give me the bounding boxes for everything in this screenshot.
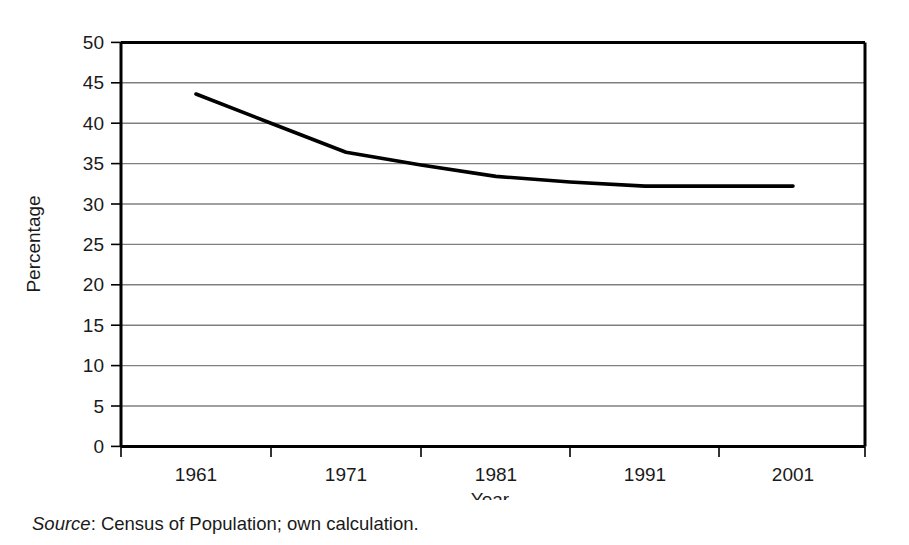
x-tick-label: 1961 (175, 464, 217, 485)
source-label: Source (32, 513, 91, 534)
y-tick-label: 0 (93, 436, 104, 457)
gridlines (121, 83, 865, 406)
y-tick-label: 50 (83, 32, 104, 53)
y-tick-label: 40 (83, 113, 104, 134)
y-tick-label: 10 (83, 355, 104, 376)
data-series-line (196, 94, 793, 186)
y-tick-label: 15 (83, 315, 104, 336)
x-axis-title: Year (471, 489, 510, 500)
line-chart: 0 5 10 15 20 25 30 35 40 45 50 1961 1971… (0, 0, 909, 500)
x-tick-labels: 1961 1971 1981 1991 2001 (175, 464, 814, 485)
x-tick-label: 1991 (624, 464, 666, 485)
y-tick-label: 25 (83, 234, 104, 255)
y-tick-label: 20 (83, 274, 104, 295)
y-tick-label: 5 (93, 396, 104, 417)
y-tick-label: 45 (83, 72, 104, 93)
x-tick-label: 1981 (475, 464, 517, 485)
y-tick-labels: 0 5 10 15 20 25 30 35 40 45 50 (83, 32, 104, 457)
source-text: : Census of Population; own calculation. (91, 513, 419, 534)
x-axis-ticks (121, 446, 865, 457)
y-tick-label: 30 (83, 194, 104, 215)
y-tick-label: 35 (83, 153, 104, 174)
figure-container: 0 5 10 15 20 25 30 35 40 45 50 1961 1971… (0, 0, 909, 545)
source-caption: Source: Census of Population; own calcul… (32, 512, 419, 536)
y-axis-title: Percentage (23, 195, 44, 292)
x-tick-label: 1971 (325, 464, 367, 485)
x-tick-label: 2001 (772, 464, 814, 485)
